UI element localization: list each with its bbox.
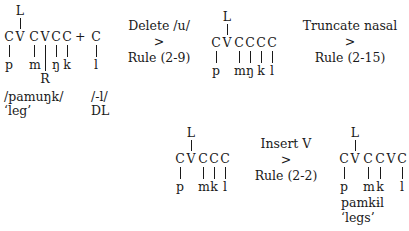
segment: k	[375, 180, 385, 193]
association-line	[402, 167, 403, 179]
segment: k	[256, 64, 266, 77]
segment: m	[363, 180, 373, 193]
arrow: >	[251, 152, 321, 168]
segment: ŋ	[245, 64, 255, 77]
segment: k	[62, 58, 72, 71]
gloss: ‘leg’	[4, 104, 31, 117]
plus-sign: +	[75, 30, 85, 43]
suffix-gloss: DL	[91, 104, 109, 117]
association-line	[216, 51, 217, 63]
association-line	[34, 45, 35, 57]
rule-number: Rule (2-15)	[300, 50, 400, 66]
segment: m	[198, 180, 208, 193]
skeleton-slot: C	[29, 30, 39, 43]
vowel-root-label: R	[40, 72, 50, 85]
association-line	[96, 45, 97, 57]
segment: m	[29, 58, 39, 71]
skeleton-slot: V	[350, 152, 360, 165]
suffix-skeleton-slot: C	[91, 30, 101, 43]
gloss: ‘legs’	[341, 211, 375, 224]
association-line	[368, 167, 369, 179]
underlying-form: /pamuŋk/	[4, 90, 63, 103]
association-line	[355, 140, 356, 151]
light-syllable-label: L	[186, 126, 196, 139]
association-line	[250, 51, 251, 63]
skeleton-slot: C	[62, 30, 72, 43]
association-line	[203, 167, 204, 179]
skeleton-slot: C	[175, 152, 185, 165]
skeleton-slot: C	[4, 30, 14, 43]
rule-name: Delete /u/	[124, 18, 194, 34]
segment: p	[4, 58, 14, 71]
skeleton-slot: V	[40, 30, 50, 43]
skeleton-slot: C	[363, 152, 373, 165]
association-line	[261, 51, 262, 63]
skeleton-slot: C	[209, 152, 219, 165]
segment: m	[234, 64, 244, 77]
rule-name: Insert V	[251, 136, 321, 152]
rule-truncate-nasal: Truncate nasal > Rule (2-15)	[300, 18, 400, 66]
rule-delete-u: Delete /u/ > Rule (2-9)	[124, 18, 194, 66]
segment: l	[220, 180, 230, 193]
association-line	[272, 51, 273, 63]
segment: ŋ	[51, 58, 61, 71]
association-line	[67, 45, 68, 57]
arrow: >	[300, 34, 400, 50]
surface-form: pamkɨl	[341, 196, 384, 209]
light-syllable-label: L	[15, 4, 25, 17]
skeleton-slot: C	[267, 36, 277, 49]
skeleton-slot: C	[245, 36, 255, 49]
segment: l	[397, 180, 407, 193]
skeleton-slot: C	[51, 30, 61, 43]
skeleton-slot: C	[375, 152, 385, 165]
rule-number: Rule (2-9)	[124, 50, 194, 66]
association-line	[20, 18, 21, 29]
skeleton-slot: V	[386, 152, 396, 165]
skeleton-slot: V	[186, 152, 196, 165]
segment: p	[339, 180, 349, 193]
association-line	[9, 45, 10, 57]
skeleton-slot: C	[256, 36, 266, 49]
skeleton-slot: C	[220, 152, 230, 165]
association-line	[227, 24, 228, 35]
association-line	[239, 51, 240, 63]
skeleton-slot: C	[198, 152, 208, 165]
suffix-form: /-l/	[91, 90, 108, 103]
segment: p	[211, 64, 221, 77]
skeleton-slot: C	[397, 152, 407, 165]
arrow: >	[124, 34, 194, 50]
skeleton-slot: C	[211, 36, 221, 49]
association-line	[380, 167, 381, 179]
light-syllable-label: L	[350, 126, 360, 139]
association-line	[344, 167, 345, 179]
skeleton-slot: C	[339, 152, 349, 165]
rule-insert-v: Insert V > Rule (2-2)	[251, 136, 321, 184]
association-line	[191, 140, 192, 151]
association-line	[180, 167, 181, 179]
association-line	[225, 167, 226, 179]
skeleton-slot: V	[222, 36, 232, 49]
segment: p	[175, 180, 185, 193]
skeleton-slot: V	[15, 30, 25, 43]
segment: k	[209, 180, 219, 193]
light-syllable-label: L	[222, 10, 232, 23]
skeleton-slot: C	[234, 36, 244, 49]
rule-number: Rule (2-2)	[251, 168, 321, 184]
association-line	[214, 167, 215, 179]
rule-name: Truncate nasal	[300, 18, 400, 34]
association-line	[56, 45, 57, 57]
segment: l	[267, 64, 277, 77]
association-line	[45, 45, 46, 71]
suffix-segment: l	[91, 58, 101, 71]
